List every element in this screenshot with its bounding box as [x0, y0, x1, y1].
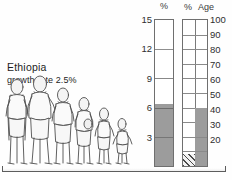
- percent-rule-12: [155, 49, 173, 50]
- percent-tick-3: 3: [138, 132, 152, 143]
- age-tick-90: 90: [210, 29, 221, 40]
- hatched-cell-icon: [183, 154, 195, 166]
- age-cell-0-30-right: [195, 122, 207, 166]
- percent-bar-filled: [155, 104, 173, 166]
- age-tick-50: 50: [210, 89, 221, 100]
- age-tick-40: 40: [210, 104, 221, 115]
- age-grid-60: [183, 78, 207, 79]
- percent-right-header: %: [184, 2, 192, 12]
- age-tick-100: 100: [210, 14, 226, 25]
- age-tick-80: 80: [210, 44, 221, 55]
- baseline-tick-right: [225, 166, 226, 172]
- age-header: Age: [198, 2, 214, 12]
- age-bar: [182, 19, 208, 167]
- age-grid-10: [183, 151, 207, 152]
- age-tick-30: 30: [210, 119, 221, 130]
- age-cell-30-40-right: [195, 108, 207, 123]
- percent-tick-9: 9: [138, 73, 152, 84]
- baseline-tick-left: [2, 166, 3, 172]
- percent-tick-12: 12: [138, 43, 152, 54]
- population-figure: Ethiopia growth rate 2.5%: [0, 0, 232, 180]
- age-tick-60: 60: [210, 74, 221, 85]
- age-grid-70: [183, 64, 207, 65]
- age-grid-50: [183, 93, 207, 94]
- age-grid-90: [183, 35, 207, 36]
- percent-rule-9b: [155, 108, 173, 109]
- percent-left-header: %: [160, 1, 168, 11]
- age-tick-20: 20: [210, 134, 221, 145]
- percent-tick-6: 6: [138, 102, 152, 113]
- age-grid-80: [183, 49, 207, 50]
- family-figures-icon: [0, 62, 146, 170]
- age-grid-20: [183, 137, 207, 138]
- baseline-rule: [2, 171, 226, 172]
- age-tick-70: 70: [210, 59, 221, 70]
- percent-rule-6: [155, 78, 173, 79]
- percent-rule-3: [155, 137, 173, 138]
- percent-tick-15: 15: [138, 14, 152, 25]
- percent-bar: [154, 19, 174, 167]
